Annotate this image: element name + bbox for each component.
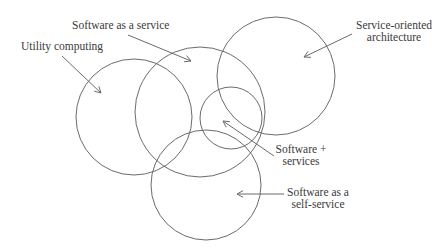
label-software-as-a-self-service: Software as a self-service xyxy=(284,186,352,210)
saas-arrow-icon xyxy=(128,35,191,62)
circle-software-as-a-self-service xyxy=(151,130,261,240)
circle-utility-computing xyxy=(76,59,192,175)
diagram-canvas: Utility computing Software as a service … xyxy=(0,0,445,252)
label-software-plus-services: Software + services xyxy=(272,143,330,167)
label-sps-line1: Software + xyxy=(272,143,330,155)
label-soa-line2: architecture xyxy=(352,31,436,43)
label-self-line1: Software as a xyxy=(284,186,352,198)
label-self-line2: self-service xyxy=(284,198,352,210)
soa-arrow-icon xyxy=(304,34,352,57)
circle-software-plus-services xyxy=(200,87,262,149)
label-soa-line1: Service-oriented xyxy=(352,19,436,31)
label-service-oriented-architecture: Service-oriented architecture xyxy=(352,19,436,43)
label-software-as-a-service: Software as a service xyxy=(72,19,169,31)
circle-software-as-a-service xyxy=(135,47,265,177)
label-utility-computing: Utility computing xyxy=(21,40,103,52)
label-sps-line2: services xyxy=(272,155,330,167)
circle-service-oriented-architecture xyxy=(217,17,335,135)
